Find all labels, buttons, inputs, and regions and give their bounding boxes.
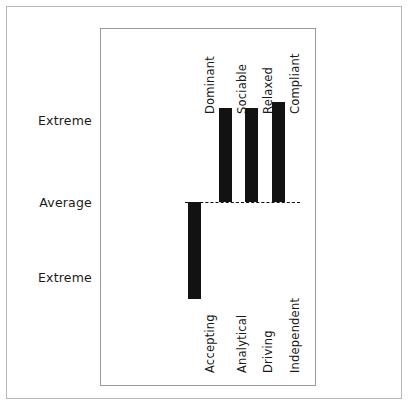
bar	[245, 108, 258, 202]
bar	[272, 102, 285, 202]
figure-page: Extreme Average Extreme DominantSociable…	[0, 0, 418, 414]
top-pole-label: Relaxed	[261, 67, 275, 114]
plot-area: Extreme Average Extreme DominantSociable…	[101, 29, 315, 385]
top-pole-label: Compliant	[288, 54, 302, 115]
bottom-pole-label: Independent	[288, 298, 302, 373]
scale-label-average: Average	[39, 195, 92, 210]
scale-label-bottom: Extreme	[38, 269, 92, 284]
top-pole-label: Dominant	[203, 56, 217, 114]
bar	[219, 108, 232, 202]
bottom-pole-label: Accepting	[203, 314, 217, 373]
average-baseline	[185, 202, 300, 203]
bottom-pole-label: Analytical	[235, 315, 249, 373]
bottom-pole-label: Driving	[261, 330, 275, 373]
scale-label-top: Extreme	[38, 113, 92, 128]
bar	[188, 202, 201, 299]
top-pole-label: Sociable	[235, 64, 249, 114]
chart-panel: Extreme Average Extreme DominantSociable…	[100, 28, 316, 386]
